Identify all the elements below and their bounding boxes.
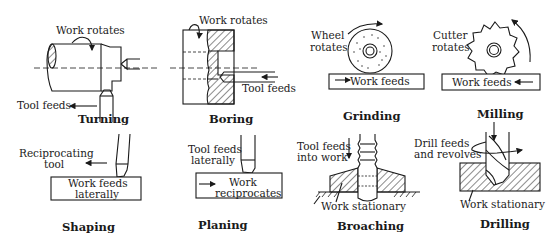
drilling-title: Drilling bbox=[480, 217, 530, 231]
boring-work-label: Work rotates bbox=[199, 15, 268, 26]
turning-title: Turning bbox=[78, 112, 129, 126]
drilling-drill-label-2: and revolves bbox=[414, 149, 481, 160]
turning-work-label: Work rotates bbox=[56, 25, 125, 36]
turning-tool-label: Tool feeds bbox=[17, 100, 71, 111]
milling-work-label: Work feeds bbox=[452, 77, 512, 88]
drilling-work-label: Work stationary bbox=[460, 199, 545, 210]
broaching-tool-label-2: into work bbox=[297, 152, 348, 163]
boring-title: Boring bbox=[209, 112, 253, 126]
grinding-work-label: Work feeds bbox=[350, 76, 410, 87]
milling-title: Milling bbox=[477, 107, 524, 121]
drilling-drawing bbox=[460, 122, 540, 201]
grinding-wheel-label-1: Wheel bbox=[311, 30, 344, 41]
planing-title: Planing bbox=[198, 218, 248, 232]
shaping-title: Shaping bbox=[62, 220, 115, 234]
boring-tool-label: Tool feeds bbox=[242, 83, 296, 94]
grinding-wheel-label-2: rotates bbox=[310, 42, 348, 53]
milling-cutter-label-2: rotates bbox=[432, 42, 470, 53]
shaping-work-label-2: laterally bbox=[75, 189, 119, 200]
broaching-work-label: Work stationary bbox=[321, 201, 406, 212]
planing-tool-label-2: laterally bbox=[191, 155, 235, 166]
broaching-title: Broaching bbox=[337, 219, 404, 233]
shaping-tool-label-2: tool bbox=[44, 159, 64, 170]
planing-work-label-2: reciprocates bbox=[215, 188, 282, 199]
milling-cutter-label-1: Cutter bbox=[433, 30, 467, 41]
grinding-title: Grinding bbox=[343, 109, 400, 123]
